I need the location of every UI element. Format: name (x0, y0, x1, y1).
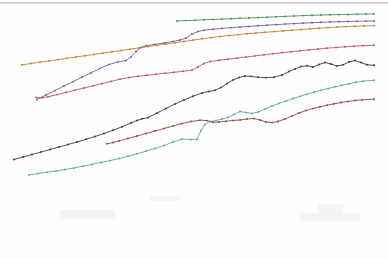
data-point (342, 64, 344, 66)
data-point (127, 155, 129, 157)
data-point (58, 146, 60, 148)
data-point (225, 120, 227, 122)
data-point (292, 98, 294, 100)
data-point (48, 60, 50, 62)
data-point (318, 64, 320, 66)
data-point (212, 18, 214, 20)
data-point (35, 97, 37, 99)
data-point (196, 138, 198, 140)
data-point (355, 81, 357, 83)
data-point (49, 149, 51, 151)
data-point (172, 41, 174, 43)
data-point (45, 94, 47, 96)
data-point (227, 58, 229, 60)
series-markers-maroon (106, 98, 375, 145)
data-point (266, 16, 268, 18)
data-point (365, 20, 367, 22)
data-point (221, 118, 223, 120)
data-point (94, 136, 96, 138)
data-point (21, 64, 23, 66)
data-point (311, 22, 313, 24)
line-chart-plot (0, 0, 388, 259)
data-point (320, 89, 322, 91)
data-point (40, 151, 42, 153)
data-point (117, 61, 119, 63)
data-point (363, 25, 365, 27)
data-point (290, 51, 292, 53)
data-point (362, 80, 364, 82)
data-point (101, 83, 103, 85)
data-point (165, 43, 167, 45)
series-markers-purple (36, 20, 375, 100)
data-point (76, 141, 78, 143)
data-point (333, 103, 335, 105)
data-point (239, 111, 241, 113)
data-point (121, 126, 123, 128)
data-point (233, 114, 235, 116)
data-point (271, 105, 273, 107)
data-point (257, 25, 259, 27)
data-point (353, 45, 355, 47)
data-point (309, 28, 311, 30)
data-point (238, 77, 240, 79)
data-point (330, 63, 332, 65)
data-point (66, 57, 68, 59)
data-point (248, 17, 250, 19)
data-point (181, 123, 183, 125)
series-green (176, 13, 375, 22)
data-point (272, 53, 274, 55)
data-point (360, 62, 362, 64)
data-point (192, 39, 194, 41)
data-point (299, 95, 301, 97)
data-point (212, 28, 214, 30)
data-point (266, 24, 268, 26)
data-point (302, 22, 304, 24)
data-point (311, 14, 313, 16)
data-point (294, 68, 296, 70)
data-point (313, 91, 315, 93)
data-point (112, 129, 114, 131)
data-point (265, 77, 267, 79)
data-point (341, 84, 343, 86)
data-point (137, 75, 139, 77)
data-point (119, 78, 121, 80)
series-line-cyan (29, 80, 374, 175)
data-point (56, 94, 58, 96)
data-point (183, 40, 185, 42)
data-point (154, 148, 156, 150)
data-point (185, 20, 187, 22)
data-point (248, 25, 250, 27)
data-point (73, 167, 75, 169)
data-point (92, 85, 94, 87)
data-point (147, 46, 149, 48)
data-point (348, 61, 350, 63)
data-point (239, 26, 241, 28)
data-point (227, 117, 229, 119)
data-point (41, 97, 43, 99)
data-point (128, 77, 130, 79)
data-point (362, 45, 364, 47)
data-point (288, 71, 290, 73)
data-point (334, 86, 336, 88)
data-point (237, 34, 239, 36)
data-point (236, 57, 238, 59)
data-point (206, 120, 208, 122)
data-point (365, 13, 367, 15)
data-point (300, 66, 302, 68)
data-point (336, 65, 338, 67)
chart-page (0, 0, 388, 259)
data-point (145, 133, 147, 135)
data-point (82, 165, 84, 167)
data-point (147, 117, 149, 119)
data-point (255, 32, 257, 34)
data-point (55, 170, 57, 172)
data-point (163, 42, 165, 44)
data-point (47, 96, 49, 98)
data-point (282, 30, 284, 32)
data-point (373, 64, 375, 66)
data-point (172, 125, 174, 127)
data-point (326, 104, 328, 106)
data-point (39, 61, 41, 63)
data-point (201, 92, 203, 94)
data-point (81, 76, 83, 78)
